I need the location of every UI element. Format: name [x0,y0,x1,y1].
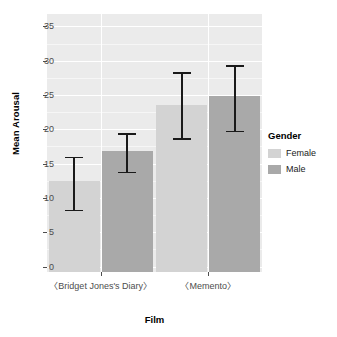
chart-container: Mean Arousal 05101520253035 〈Bridget Jon… [0,0,337,337]
errorbar-cap-upper-male-group2 [226,65,244,67]
errorbar-cap-upper-male-group1 [118,133,136,135]
y-tick-mark [43,26,47,27]
y-tick-mark [43,129,47,130]
y-tick-mark [43,267,47,268]
errorbar-stem-male-group2 [234,65,236,130]
errorbar-cap-lower-female-group1 [65,210,83,212]
legend-title: Gender [268,130,337,141]
legend-swatch-icon [268,165,281,174]
x-tick-mark [208,272,209,276]
y-tick-mark [43,198,47,199]
legend-entry-label: Male [286,164,306,174]
y-tick-mark [43,61,47,62]
errorbar-cap-upper-female-group2 [173,72,191,74]
plot-panel [47,14,262,272]
errorbar-stem-female-group2 [181,72,183,138]
y-tick-mark [43,164,47,165]
x-tick-label: 〈Memento〉 [148,281,268,293]
legend: Gender FemaleMale [268,130,337,178]
x-tick-label: 〈Bridget Jones's Diary〉 [41,281,161,293]
errorbar-stem-male-group1 [126,133,128,171]
y-tick-mark [43,232,47,233]
legend-entry-list: FemaleMale [268,146,337,176]
x-tick-mark [101,272,102,276]
errorbar-cap-lower-female-group2 [173,138,191,140]
errorbar-stem-female-group1 [73,157,75,210]
legend-entry-male[interactable]: Male [268,162,337,176]
legend-swatch-icon [268,149,281,158]
legend-entry-female[interactable]: Female [268,146,337,160]
errorbar-cap-lower-male-group1 [118,172,136,174]
gridline-minor [47,44,262,45]
y-tick-mark [43,95,47,96]
x-axis-title: Film [47,314,262,325]
errorbar-cap-lower-male-group2 [226,131,244,133]
gridline-major [47,61,262,62]
errorbar-cap-upper-female-group1 [65,157,83,159]
gridline-major [47,26,262,27]
legend-entry-label: Female [286,148,316,158]
gridline-minor [47,78,262,79]
